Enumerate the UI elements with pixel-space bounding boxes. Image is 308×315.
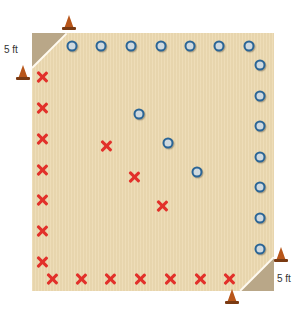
court-area bbox=[32, 33, 274, 291]
x-marker-icon bbox=[46, 273, 58, 285]
x-marker-icon bbox=[104, 273, 116, 285]
cone-icon bbox=[64, 15, 74, 29]
x-marker-icon bbox=[36, 256, 48, 268]
o-marker-icon bbox=[255, 244, 266, 255]
o-marker-icon bbox=[126, 41, 137, 52]
o-marker-icon bbox=[156, 41, 167, 52]
cone-icon bbox=[18, 65, 28, 79]
o-marker-icon bbox=[255, 121, 266, 132]
o-marker-icon bbox=[134, 109, 145, 120]
cone-icon bbox=[276, 247, 286, 261]
o-marker-icon bbox=[255, 60, 266, 71]
x-marker-icon bbox=[36, 133, 48, 145]
o-marker-icon bbox=[192, 167, 203, 178]
x-marker-icon bbox=[36, 102, 48, 114]
x-marker-icon bbox=[156, 200, 168, 212]
o-marker-icon bbox=[67, 41, 78, 52]
x-marker-icon bbox=[134, 273, 146, 285]
x-marker-icon bbox=[194, 273, 206, 285]
o-marker-icon bbox=[255, 91, 266, 102]
x-marker-icon bbox=[223, 273, 235, 285]
x-marker-icon bbox=[75, 273, 87, 285]
o-marker-icon bbox=[255, 213, 266, 224]
x-marker-icon bbox=[100, 140, 112, 152]
distance-label-top-left: 5 ft bbox=[4, 44, 18, 55]
o-marker-icon bbox=[185, 41, 196, 52]
x-marker-icon bbox=[36, 194, 48, 206]
x-marker-icon bbox=[36, 225, 48, 237]
cone-icon bbox=[227, 289, 237, 303]
o-marker-icon bbox=[214, 41, 225, 52]
distance-label-bottom-right: 5 ft bbox=[277, 273, 291, 284]
o-marker-icon bbox=[255, 152, 266, 163]
o-marker-icon bbox=[244, 41, 255, 52]
o-marker-icon bbox=[163, 138, 174, 149]
x-marker-icon bbox=[164, 273, 176, 285]
x-marker-icon bbox=[36, 164, 48, 176]
o-marker-icon bbox=[96, 41, 107, 52]
x-marker-icon bbox=[128, 171, 140, 183]
x-marker-icon bbox=[36, 71, 48, 83]
o-marker-icon bbox=[255, 182, 266, 193]
